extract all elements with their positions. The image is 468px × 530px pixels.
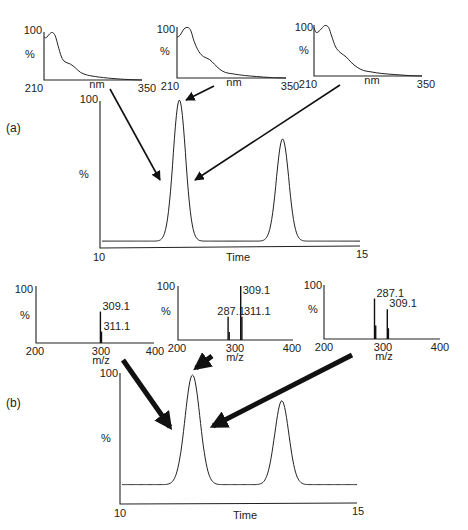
chromatogram-a-ytick-100: 100	[80, 93, 98, 105]
uv-spectrum-2: 100 % 210 nm 350	[157, 23, 300, 92]
ms-2-ylabel: %	[161, 305, 171, 317]
ms-peak-label: 311.1	[244, 305, 271, 317]
mass-spectrum-2: 287.1309.1311.1 100 % 200 300 400 m/z	[157, 280, 302, 363]
uv-spectrum-2-ytick-100: 100	[157, 23, 175, 35]
uv-spectrum-2-xtick-210: 210	[161, 80, 179, 92]
ms-peak-label: 309.1	[389, 297, 417, 309]
uv-spectrum-3-trace	[314, 25, 422, 76]
uv-spectrum-2-xtick-350: 350	[281, 80, 299, 92]
uv-spectrum-2-xlabel: nm	[226, 76, 241, 88]
chromatogram-b-xtick-15: 15	[352, 505, 364, 517]
uv-spectrum-3: 100 % 210 nm 350	[295, 21, 436, 90]
uv-spectrum-1-trace	[44, 32, 142, 80]
uv-spectrum-1-xtick-350: 350	[138, 82, 156, 94]
ms-3-xlabel: m/z	[375, 350, 393, 362]
chromatogram-a-axes	[100, 101, 360, 248]
ms-2-xtick-200: 200	[168, 342, 186, 354]
ms-peak-label: 309.1	[243, 284, 271, 296]
uv-spectrum-3-xtick-350: 350	[417, 78, 435, 90]
arrow-ms-2	[196, 356, 212, 368]
uv-spectrum-1-xtick-210: 210	[25, 82, 43, 94]
chromatogram-a-trace	[102, 100, 360, 241]
uv-spectrum-2-trace	[177, 27, 286, 78]
uv-spectrum-3-xlabel: nm	[364, 74, 379, 86]
arrow-uv-1	[110, 89, 160, 180]
uv-spectrum-3-ylabel: %	[299, 44, 309, 56]
uv-chromatogram-a: 100 % 10 Time 15	[79, 93, 368, 263]
uv-spectrum-1-ytick-100: 100	[24, 24, 42, 36]
chromatogram-a-xtick-15: 15	[356, 248, 368, 260]
ms-peak-label: 309.1	[102, 300, 130, 312]
uv-spectrum-3-ytick-100: 100	[295, 21, 313, 33]
chromatogram-b-ylabel: %	[101, 432, 111, 444]
ms-2-ytick-100: 100	[157, 280, 175, 292]
ms-1-ylabel: %	[20, 309, 30, 321]
lc-figure: (a) (b) 100 % 210 nm 350 100 % 210 nm 35…	[0, 0, 468, 530]
arrow-ms-3	[213, 355, 352, 426]
ms-3-xtick-400: 400	[431, 341, 449, 353]
ms-3-ylabel: %	[308, 303, 318, 315]
ms-1-xtick-400: 400	[146, 345, 164, 357]
ms-chromatogram-b: 100 % 10 Time 15	[100, 367, 364, 521]
mass-spectrum-3: 287.1309.1 100 % 200 300 400 m/z	[304, 279, 450, 362]
ms-peak-label: 311.1	[104, 320, 131, 332]
chromatogram-b-xlabel: Time	[233, 509, 257, 521]
panel-b-label: (b)	[6, 396, 21, 410]
uv-spectrum-1: 100 % 210 nm 350	[24, 24, 157, 94]
uv-spectrum-1-axes	[44, 32, 142, 80]
chromatogram-a-xlabel: Time	[226, 251, 250, 263]
arrow-uv-3	[195, 85, 340, 180]
arrow-uv-2	[186, 86, 214, 100]
arrow-ms-1	[123, 360, 170, 427]
chromatogram-b-xtick-10: 10	[114, 507, 126, 519]
ms-3-xtick-200: 200	[315, 341, 333, 353]
ms-1-ytick-100: 100	[15, 283, 33, 295]
ms-1-xtick-200: 200	[26, 345, 44, 357]
chromatogram-a-ylabel: %	[79, 168, 89, 180]
ms-1-xlabel: m/z	[92, 354, 110, 366]
uv-spectrum-3-xtick-210: 210	[299, 78, 317, 90]
chromatogram-a-xtick-10: 10	[93, 251, 105, 263]
ms-3-ytick-100: 100	[304, 279, 322, 291]
chromatogram-b-trace	[122, 375, 357, 485]
mass-spectrum-1: 309.1311.1 100 % 200 300 400 m/z	[15, 283, 165, 366]
panel-a-label: (a)	[6, 121, 21, 135]
uv-spectrum-1-ylabel: %	[25, 48, 35, 60]
chromatogram-b-ytick-100: 100	[100, 367, 118, 379]
ms-2-xtick-400: 400	[283, 342, 301, 354]
ms-2-xlabel: m/z	[226, 351, 244, 363]
uv-spectrum-2-ylabel: %	[160, 45, 170, 57]
uv-spectrum-1-xlabel: nm	[89, 78, 104, 90]
